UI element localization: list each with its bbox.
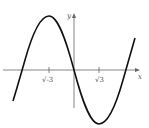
tick-label-pos: √3 xyxy=(95,76,104,84)
x-axis-arrow-icon xyxy=(135,68,140,72)
x-axis-label: x xyxy=(138,73,142,81)
function-graph: √-3 √3 y x xyxy=(0,0,149,128)
y-axis-label: y xyxy=(66,12,72,20)
tick-label-neg: √-3 xyxy=(42,76,53,84)
y-axis-arrow-icon xyxy=(72,13,76,18)
